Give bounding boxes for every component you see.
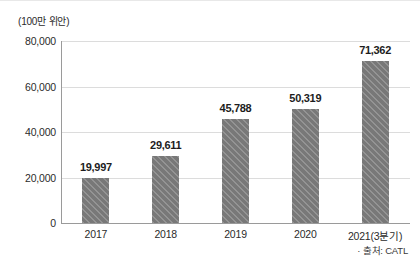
gridline bbox=[61, 41, 410, 42]
y-axis-tick-label: 40,000 bbox=[2, 126, 56, 138]
gridline bbox=[61, 87, 410, 88]
plot-area: 19,99729,61145,78850,31971,362 bbox=[61, 41, 410, 223]
x-axis-tick-label: 2021(3분기) bbox=[348, 228, 402, 243]
y-axis-tick-labels: 020,00040,00060,00080,000 bbox=[0, 0, 56, 270]
bar[interactable] bbox=[362, 61, 389, 223]
y-axis-tick-label: 80,000 bbox=[2, 35, 56, 47]
y-axis-line bbox=[61, 41, 62, 224]
y-axis-tick-label: 20,000 bbox=[2, 172, 56, 184]
y-axis-tick-label: 60,000 bbox=[2, 81, 56, 93]
bar[interactable] bbox=[222, 119, 249, 223]
bar[interactable] bbox=[152, 156, 179, 223]
bar-chart: (100만 위안) 020,00040,00060,00080,000 19,9… bbox=[0, 0, 420, 270]
bar-value-label: 29,611 bbox=[150, 139, 181, 151]
bar-value-label: 45,788 bbox=[220, 102, 252, 114]
x-axis-line bbox=[61, 223, 410, 224]
x-axis-tick-label: 2020 bbox=[294, 228, 317, 240]
x-axis-tick-label: 2019 bbox=[224, 228, 247, 240]
bar-value-label: 50,319 bbox=[289, 92, 321, 104]
bar[interactable] bbox=[82, 178, 109, 223]
top-divider bbox=[0, 0, 420, 1]
y-axis-tick-label: 0 bbox=[2, 217, 56, 229]
bar-value-label: 19,997 bbox=[80, 161, 112, 173]
source-note: · 출처: CATL bbox=[357, 243, 408, 257]
x-axis-tick-label: 2018 bbox=[154, 228, 177, 240]
bar-value-label: 71,362 bbox=[359, 44, 391, 56]
x-axis-tick-label: 2017 bbox=[85, 228, 108, 240]
bar[interactable] bbox=[292, 109, 319, 223]
